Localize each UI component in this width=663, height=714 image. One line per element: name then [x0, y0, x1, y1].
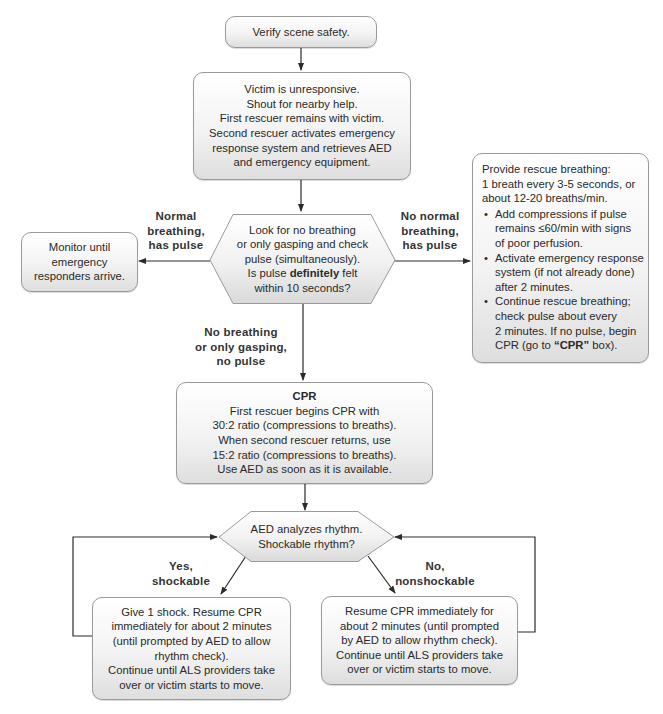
label-normal-breathing: Normal breathing, has pulse [143, 209, 209, 253]
no-shock-line: over or victim starts to move. [347, 662, 491, 677]
cpr-line: 15:2 ratio (compressions to breaths). [213, 448, 397, 463]
rescue-breathing-bullet: Continue rescue breathing; check pulse a… [495, 294, 644, 352]
no-shock-line: Continue until ALS providers take [336, 648, 503, 663]
no-shock-line: about 2 minutes (until prompted [340, 619, 499, 634]
label-no-normal-breathing: No normal breathing, has pulse [394, 209, 466, 253]
no-shock-line: Resume CPR immediately for [345, 604, 494, 619]
pulse-check-decision: Look for no breathing or only gasping an… [209, 214, 396, 304]
verify-scene-safety-text: Verify scene safety. [252, 25, 349, 40]
shock-box: Give 1 shock. Resume CPR immediately for… [92, 597, 291, 700]
unresponsive-line: Second rescuer activates emergency [209, 126, 395, 141]
unresponsive-line: First rescuer remains with victim. [220, 111, 384, 126]
no-shock-line: by AED to allow rhythm check). [341, 633, 497, 648]
definitely-emphasis: definitely [290, 267, 340, 279]
monitor-box: Monitor until emergency responders arriv… [21, 232, 138, 292]
cpr-line: When second rescuer returns, use [218, 433, 391, 448]
cpr-line: First rescuer begins CPR with [230, 404, 379, 419]
unresponsive-line: response system and retrieves AED [212, 141, 392, 156]
aed-decision-line: Shockable rhythm? [258, 537, 355, 552]
victim-unresponsive-box: Victim is unresponsive. Shout for nearby… [193, 72, 411, 180]
aed-decision-line: AED analyzes rhythm. [251, 522, 363, 537]
pulse-check-line: pulse (simultaneously). [245, 252, 361, 267]
cpr-box: CPR First rescuer begins CPR with 30:2 r… [176, 382, 433, 484]
shock-line: immediately for about 2 minutes [111, 619, 271, 634]
rescue-breathing-intro: Provide rescue breathing: [482, 162, 611, 177]
rescue-breathing-list: Add compressions if pulse remains ≤60/mi… [482, 207, 644, 353]
rescue-breathing-bullet: Add compressions if pulse remains ≤60/mi… [495, 207, 644, 251]
monitor-line: responders arrive. [34, 269, 125, 284]
cpr-line: 30:2 ratio (compressions to breaths). [213, 418, 397, 433]
cpr-title: CPR [293, 389, 317, 404]
rescue-breathing-intro: about 12-20 breaths/min. [482, 191, 608, 206]
verify-scene-safety-box: Verify scene safety. [225, 16, 377, 48]
unresponsive-line: Shout for nearby help. [246, 97, 357, 112]
pulse-check-line: within 10 seconds? [254, 281, 350, 296]
label-shockable: Yes, shockable [146, 559, 216, 588]
monitor-line: emergency [52, 255, 108, 270]
shock-line: over or victim starts to move. [119, 678, 263, 693]
pulse-check-line: Look for no breathing [249, 223, 356, 238]
cpr-line: Use AED as soon as it is available. [217, 462, 392, 477]
shock-line: rhythm check). [154, 649, 228, 664]
cpr-reference: “CPR” [554, 339, 589, 351]
shock-line: (until prompted by AED to allow [113, 634, 271, 649]
rescue-breathing-box: Provide rescue breathing: 1 breath every… [472, 153, 649, 363]
shock-line: Give 1 shock. Resume CPR [121, 605, 262, 620]
pulse-check-line: Is pulse definitely felt [248, 266, 358, 281]
label-no-breathing: No breathing or only gasping, no pulse [188, 325, 294, 369]
shock-line: Continue until ALS providers take [108, 663, 275, 678]
monitor-line: Monitor until [49, 240, 111, 255]
unresponsive-line: and emergency equipment. [234, 155, 371, 170]
label-nonshockable: No, nonshockable [390, 559, 480, 588]
pulse-check-line: or only gasping and check [237, 237, 368, 252]
rescue-breathing-intro: 1 breath every 3-5 seconds, or [482, 177, 635, 192]
aed-rhythm-decision: AED analyzes rhythm. Shockable rhythm? [218, 511, 395, 562]
rescue-breathing-bullet: Activate emergency response system (if n… [495, 251, 644, 295]
unresponsive-line: Victim is unresponsive. [244, 82, 359, 97]
no-shock-box: Resume CPR immediately for about 2 minut… [321, 596, 518, 685]
